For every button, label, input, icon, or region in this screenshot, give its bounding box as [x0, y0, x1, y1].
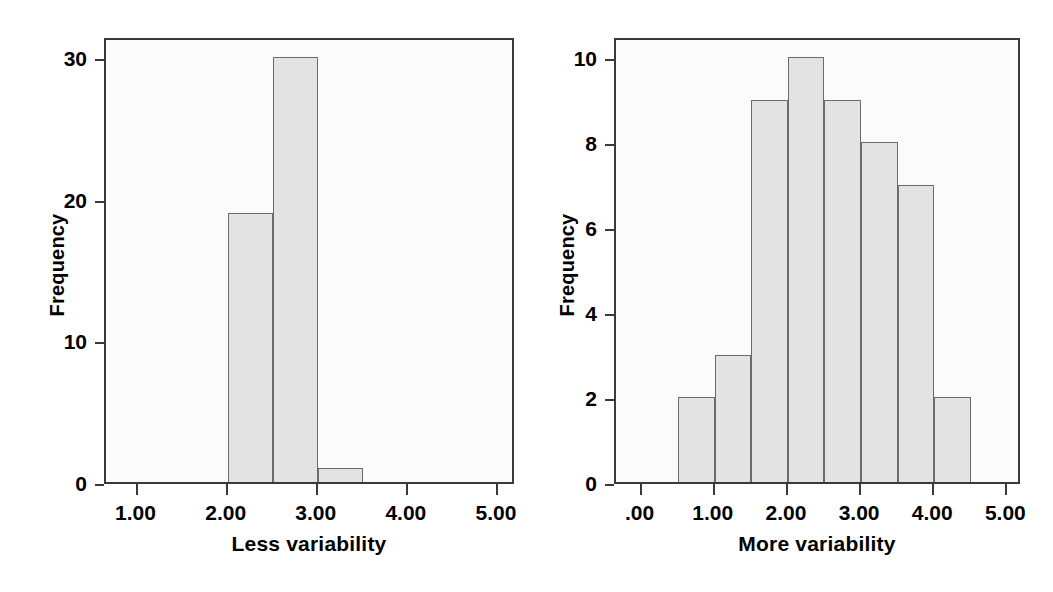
y-tick-label: 20	[31, 190, 87, 211]
x-tick-mark	[226, 484, 228, 495]
two-histogram-figure: Frequency 0102030 1.002.003.004.005.00 L…	[0, 0, 1053, 592]
histogram-bar	[898, 185, 935, 482]
plot-area-right	[614, 38, 1020, 484]
histogram-bar	[788, 57, 825, 482]
x-tick-label: 1.00	[91, 502, 181, 523]
y-tick-label: 4	[541, 303, 597, 324]
x-tick-label: 4.00	[361, 502, 451, 523]
x-tick-mark	[786, 484, 788, 495]
y-tick-label: 10	[31, 331, 87, 352]
x-tick-mark	[932, 484, 934, 495]
histogram-panel-more-variability: Frequency 0246810 .001.002.003.004.005.0…	[530, 0, 1053, 592]
x-tick-mark	[136, 484, 138, 495]
y-axis-title-right: Frequency	[556, 187, 579, 317]
x-tick-label: 2.00	[181, 502, 271, 523]
histogram-bar	[715, 355, 752, 482]
y-tick-mark	[95, 59, 104, 61]
x-tick-mark	[713, 484, 715, 495]
x-tick-mark	[1005, 484, 1007, 495]
x-tick-label: 5.00	[451, 502, 541, 523]
y-tick-label: 2	[541, 388, 597, 409]
bars-container-left	[106, 40, 512, 482]
y-tick-label: 0	[31, 473, 87, 494]
y-tick-label: 8	[541, 133, 597, 154]
histogram-panel-less-variability: Frequency 0102030 1.002.003.004.005.00 L…	[0, 0, 530, 592]
x-tick-label: 5.00	[960, 502, 1050, 523]
y-tick-mark	[605, 314, 614, 316]
x-tick-mark	[406, 484, 408, 495]
histogram-bar	[318, 468, 363, 482]
histogram-bar	[861, 142, 898, 482]
y-tick-mark	[605, 144, 614, 146]
x-tick-mark	[496, 484, 498, 495]
y-tick-label: 6	[541, 218, 597, 239]
y-tick-mark	[95, 201, 104, 203]
y-tick-mark	[95, 342, 104, 344]
histogram-bar	[273, 57, 318, 482]
y-tick-label: 30	[31, 48, 87, 69]
x-tick-mark	[640, 484, 642, 495]
y-tick-mark	[605, 229, 614, 231]
histogram-bar	[228, 213, 273, 482]
x-tick-mark	[859, 484, 861, 495]
y-tick-label: 10	[541, 48, 597, 69]
y-tick-mark	[605, 59, 614, 61]
y-tick-mark	[95, 484, 104, 486]
histogram-bar	[934, 397, 971, 482]
y-tick-mark	[605, 399, 614, 401]
y-tick-mark	[605, 484, 614, 486]
x-axis-title-left: Less variability	[104, 532, 514, 556]
bars-container-right	[616, 40, 1018, 482]
x-tick-label: 3.00	[271, 502, 361, 523]
histogram-bar	[824, 100, 861, 482]
y-tick-label: 0	[541, 473, 597, 494]
histogram-bar	[678, 397, 715, 482]
plot-area-left	[104, 38, 514, 484]
x-tick-mark	[316, 484, 318, 495]
histogram-bar	[751, 100, 788, 482]
x-axis-title-right: More variability	[614, 532, 1020, 556]
